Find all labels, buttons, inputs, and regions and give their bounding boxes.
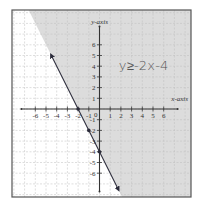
y-tick-label: 6 (92, 41, 96, 49)
inequality-graph: -6-5-4-3-2-1123456-6-5-4-3-2-1123456 y-a… (0, 0, 201, 207)
y-tick-label: 4 (92, 63, 96, 71)
x-axis-end-dot (177, 108, 179, 110)
x-axis-end-dot (20, 108, 22, 110)
plotted-point (98, 150, 102, 154)
plotted-point (87, 129, 91, 133)
y-tick-label: -6 (90, 170, 96, 178)
y-tick-label: 1 (92, 95, 96, 103)
y-tick-label: 2 (92, 84, 96, 92)
plotted-point (76, 107, 80, 111)
inequality-label: y≥-2x-4 (119, 58, 169, 73)
x-tick-label: 6 (162, 112, 166, 120)
x-tick-label: 2 (119, 112, 123, 120)
y-axis-title: y-axis (90, 18, 108, 26)
x-tick-label: -6 (32, 112, 38, 120)
x-tick-label: 5 (151, 112, 155, 120)
x-tick-label: -4 (54, 112, 60, 120)
x-tick-label: -3 (64, 112, 70, 120)
y-axis-end-dot (99, 190, 101, 192)
origin-label: 0 (94, 111, 98, 119)
y-tick-label: -5 (90, 159, 96, 167)
x-tick-label: 1 (108, 112, 112, 120)
y-tick-label: -4 (90, 148, 96, 156)
y-tick-label: 5 (92, 52, 96, 60)
x-tick-label: -5 (43, 112, 49, 120)
y-tick-label: 3 (92, 73, 96, 81)
x-tick-label: 4 (141, 112, 145, 120)
x-tick-label: 3 (130, 112, 134, 120)
x-axis-title: x-axis (170, 95, 188, 103)
